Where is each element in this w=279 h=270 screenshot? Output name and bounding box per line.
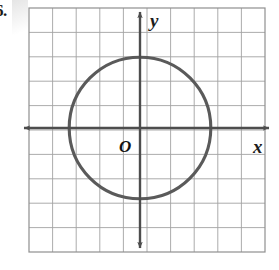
origin-label: O [119, 137, 131, 156]
coordinate-plane: y x O [0, 0, 279, 270]
figure-root: 6. [0, 0, 279, 270]
x-axis-label: x [252, 136, 263, 157]
y-axis-label: y [148, 10, 159, 31]
